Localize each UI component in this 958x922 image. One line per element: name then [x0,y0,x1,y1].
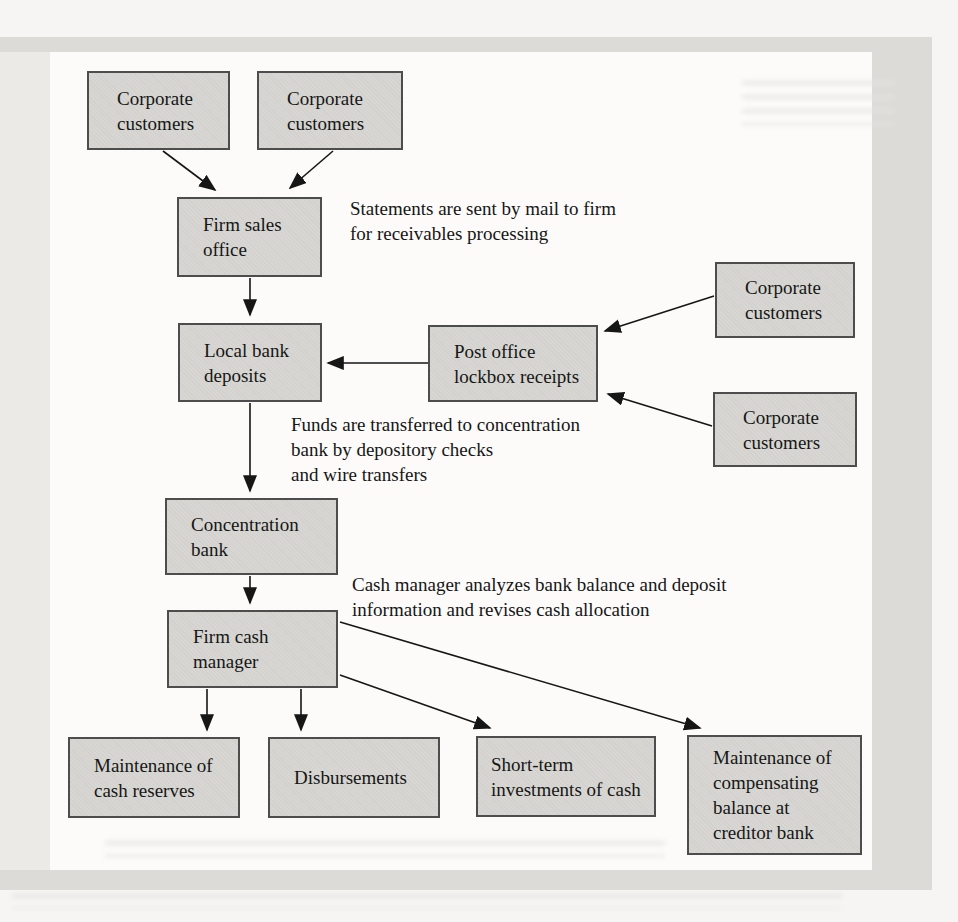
mat-top-band [0,37,932,52]
node-corporate-customers-top-mid: Corporate customers [257,71,403,150]
bleed-through-top-right [742,80,894,126]
annotation-statements: Statements are sent by mail to firm for … [350,196,710,246]
scanned-textbook-figure: Corporate customers Corporate customers … [0,0,958,922]
mat-right-band [872,37,932,890]
node-disbursements: Disbursements [268,737,440,818]
annotation-funds-transfer: Funds are transferred to concentration b… [291,412,661,487]
node-concentration-bank: Concentration bank [165,498,338,575]
bleed-through-page-bottom [12,893,842,909]
node-corporate-customers-top-left: Corporate customers [87,71,230,150]
annotation-cash-manager-note: Cash manager analyzes bank balance and d… [352,572,822,622]
mat-bottom-band [0,870,932,890]
node-local-bank-deposits: Local bank deposits [178,323,322,402]
node-corporate-customers-right-upper: Corporate customers [715,262,855,338]
node-maintenance-cash-reserves: Maintenance of cash reserves [68,737,240,818]
mat-left-band [0,52,50,870]
node-post-office-lockbox: Post office lockbox receipts [428,325,598,402]
node-corporate-customers-right-lower: Corporate customers [713,392,857,467]
bleed-through-panel-bottom [105,840,665,858]
node-firm-sales-office: Firm sales office [177,197,322,277]
node-short-term-investments: Short-term investments of cash [476,736,656,817]
node-firm-cash-manager: Firm cash manager [167,610,338,688]
node-compensating-balance: Maintenance of compensating balance at c… [687,735,862,855]
